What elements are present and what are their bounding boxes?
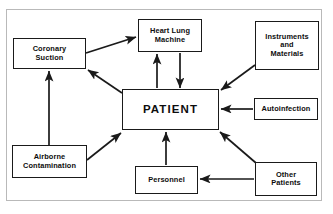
node-label: Personnel <box>146 176 187 184</box>
edge-arrow <box>220 132 256 163</box>
node-airborne-contamination[interactable]: Airborne Contamination <box>12 145 87 178</box>
node-label: PATIENT <box>141 103 200 116</box>
node-heart-lung-machine[interactable]: Heart Lung Machine <box>138 19 202 52</box>
node-instruments-and-materials[interactable]: Instruments and Materials <box>255 21 319 70</box>
node-label: Instruments and Materials <box>263 33 310 58</box>
node-personnel[interactable]: Personnel <box>135 166 198 194</box>
node-autoinfection[interactable]: Autoinfection <box>254 98 318 120</box>
node-label: Autoinfection <box>260 105 313 113</box>
node-coronary-suction[interactable]: Coronary Suction <box>13 38 86 69</box>
edge-arrow <box>221 65 255 90</box>
node-label: Coronary Suction <box>31 45 69 62</box>
node-label: Other Patients <box>269 171 303 188</box>
edge-arrow <box>86 37 136 53</box>
node-label: Heart Lung Machine <box>148 27 192 44</box>
edge-arrow <box>88 70 122 93</box>
node-other-patients[interactable]: Other Patients <box>255 162 317 196</box>
diagram-canvas: Coronary Suction Heart Lung Machine Inst… <box>0 0 333 214</box>
node-label: Airborne Contamination <box>21 153 78 170</box>
edge-arrow <box>87 133 121 160</box>
node-patient[interactable]: PATIENT <box>122 89 219 130</box>
